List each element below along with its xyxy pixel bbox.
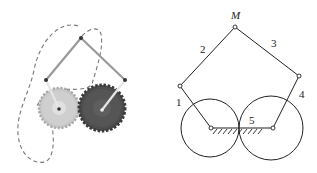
label-link-2: 2 — [200, 43, 206, 55]
joint-right — [297, 74, 301, 78]
label-link-4: 4 — [299, 88, 305, 100]
ground-hatching — [213, 129, 262, 134]
joint-left — [178, 84, 182, 88]
label-link-3: 3 — [271, 37, 277, 49]
link-4 — [273, 76, 299, 128]
link-2 — [180, 27, 235, 86]
link-right-top — [81, 38, 125, 80]
label-link-5: 5 — [249, 114, 255, 126]
link-left-top — [46, 38, 81, 80]
joint-m — [233, 25, 237, 29]
label-link-1: 1 — [176, 96, 182, 108]
right-panel: M 2 3 1 4 5 — [176, 9, 305, 160]
mechanism-figure: M 2 3 1 4 5 — [0, 0, 317, 173]
link-1 — [180, 86, 211, 128]
left-panel — [18, 25, 127, 162]
pivot-right — [271, 126, 275, 130]
link-3 — [235, 27, 299, 76]
gear-right — [79, 85, 125, 131]
pivot-left — [209, 126, 213, 130]
label-m: M — [230, 9, 241, 21]
